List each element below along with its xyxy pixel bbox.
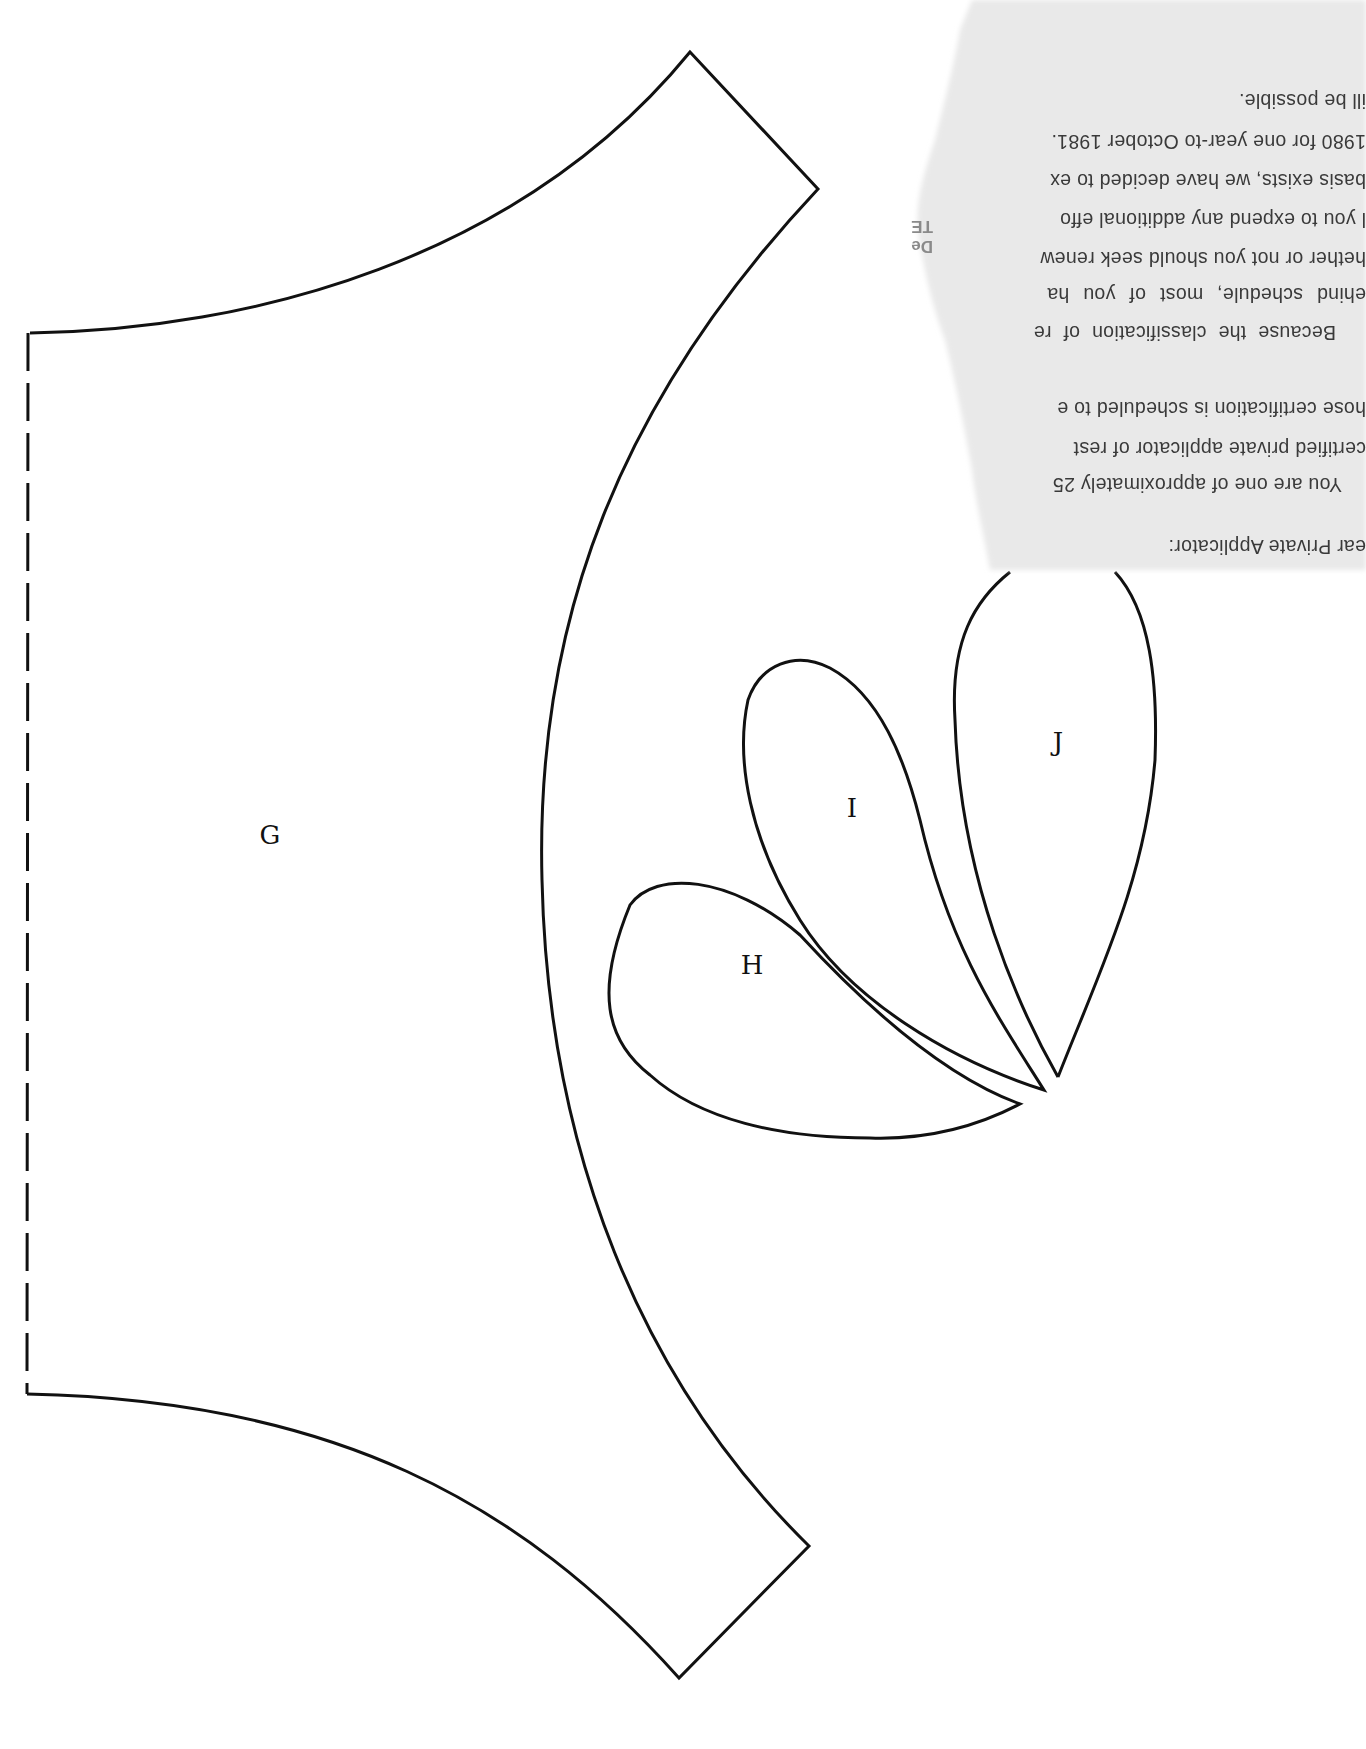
piece-label-h: H [741,950,764,980]
fold-line-dashed [27,333,28,1394]
piece-g-outline [27,52,818,1678]
piece-label-j: J [1053,727,1063,757]
sewing-pattern [0,0,1366,1749]
pattern-piece-g [27,52,818,1678]
pattern-piece-h [609,883,1020,1138]
piece-label-i: I [847,793,857,823]
piece-label-g: G [260,820,281,850]
pattern-piece-j [954,572,1155,1077]
